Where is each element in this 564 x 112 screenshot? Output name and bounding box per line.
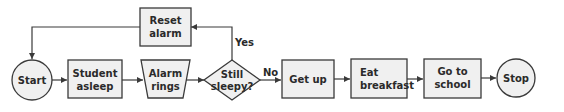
- node-still-sleepy-label-line1: Still: [221, 69, 243, 80]
- node-still-sleepy: Still sleepy?: [204, 60, 260, 100]
- node-alarm-rings-label-line1: Alarm: [149, 68, 182, 79]
- node-get-up: Get up: [282, 60, 334, 98]
- node-reset-alarm-label-line1: Reset: [150, 15, 182, 26]
- node-reset-alarm-label-line2: alarm: [149, 28, 181, 39]
- node-start-label: Start: [18, 75, 47, 86]
- node-alarm-rings-label-line2: rings: [151, 81, 180, 92]
- node-eat-breakfast-label-line1: Eat: [360, 67, 379, 78]
- node-reset-alarm: Reset alarm: [140, 8, 191, 46]
- edge-reset-alarm-to-start: [32, 27, 140, 59]
- no-label: No: [263, 67, 278, 78]
- node-stop-label: Stop: [503, 73, 529, 84]
- node-go-to-school-label-line1: Go to: [437, 66, 467, 77]
- edge-still-sleepy-to-reset-alarm: [191, 27, 232, 60]
- node-student-asleep-label-line1: Student: [73, 68, 118, 79]
- yes-label: Yes: [234, 37, 254, 48]
- node-go-to-school: Go to school: [424, 59, 481, 98]
- node-eat-breakfast-label-line2: breakfast: [360, 80, 414, 91]
- node-still-sleepy-label-line2: sleepy?: [211, 81, 254, 92]
- node-go-to-school-label-line2: school: [434, 79, 470, 90]
- node-start: Start: [12, 60, 52, 100]
- flowchart-diagram: Yes No Start Student asleep Alarm rings …: [0, 0, 564, 112]
- node-stop: Stop: [497, 59, 535, 97]
- node-get-up-label: Get up: [289, 74, 327, 85]
- node-eat-breakfast: Eat breakfast: [351, 59, 414, 98]
- node-student-asleep: Student asleep: [68, 60, 122, 98]
- node-alarm-rings: Alarm rings: [141, 60, 190, 98]
- node-student-asleep-label-line2: asleep: [77, 81, 114, 92]
